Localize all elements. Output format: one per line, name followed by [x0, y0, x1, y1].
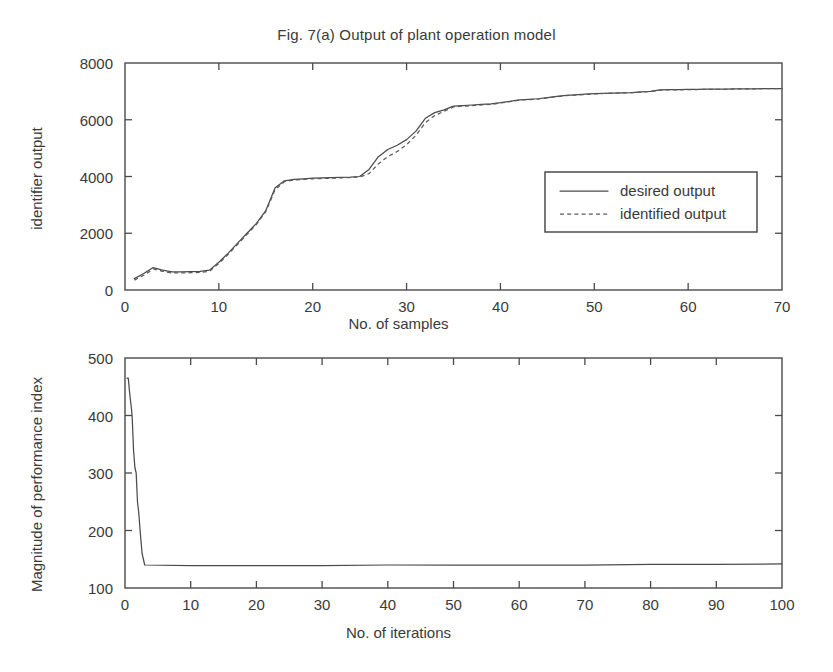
y-tick-label: 200: [88, 523, 113, 540]
x-tick-label: 30: [398, 298, 415, 315]
x-tick-label: 80: [642, 596, 659, 613]
x-tick-label: 90: [708, 596, 725, 613]
plot-panel-bottom: Magnitude of performance index No. of it…: [0, 336, 833, 672]
x-tick-label: 0: [121, 596, 129, 613]
legend-label-desired: desired output: [620, 182, 716, 199]
plot-panel-top: Fig. 7(a) Output of plant operation mode…: [0, 0, 833, 340]
figure-container: Fig. 7(a) Output of plant operation mode…: [0, 0, 833, 672]
series-line-performance-index: [127, 378, 782, 565]
y-tick-label: 8000: [80, 55, 113, 72]
legend-top: desired output identified output: [545, 172, 757, 232]
legend-box-rect: [545, 172, 757, 232]
plot-svg-bottom: 0102030405060708090100100200300400500: [0, 336, 833, 672]
legend-label-identified: identified output: [620, 205, 727, 222]
x-axis-label-bottom: No. of iterations: [0, 624, 815, 641]
data-series-bottom: [127, 378, 782, 565]
x-tick-label: 30: [314, 596, 331, 613]
x-tick-label: 0: [121, 298, 129, 315]
x-tick-label: 20: [304, 298, 321, 315]
y-tick-label: 300: [88, 465, 113, 482]
y-axis-label-top: identifier output: [28, 99, 45, 259]
y-tick-label: 400: [88, 408, 113, 425]
x-tick-label: 10: [182, 596, 199, 613]
axis-ticks-bottom: 0102030405060708090100100200300400500: [88, 350, 795, 613]
x-tick-label: 70: [774, 298, 791, 315]
x-tick-label: 40: [492, 298, 509, 315]
plot-frame-bottom: [125, 358, 782, 588]
plot-svg-top: 01020304050607002000400060008000 desired…: [0, 0, 833, 340]
x-tick-label: 40: [379, 596, 396, 613]
y-tick-label: 0: [105, 282, 113, 299]
y-axis-label-bottom: Magnitude of performance index: [28, 350, 45, 620]
axes-frame-bottom: [125, 358, 782, 588]
x-axis-label-top: No. of samples: [0, 315, 815, 332]
x-tick-label: 60: [680, 298, 697, 315]
x-tick-label: 70: [577, 596, 594, 613]
y-tick-label: 100: [88, 580, 113, 597]
x-tick-label: 10: [211, 298, 228, 315]
x-tick-label: 100: [769, 596, 794, 613]
x-tick-label: 60: [511, 596, 528, 613]
x-tick-label: 20: [248, 596, 265, 613]
y-tick-label: 500: [88, 350, 113, 367]
x-tick-label: 50: [586, 298, 603, 315]
y-tick-label: 2000: [80, 225, 113, 242]
y-tick-label: 6000: [80, 112, 113, 129]
chart-title-top: Fig. 7(a) Output of plant operation mode…: [0, 26, 833, 43]
y-tick-label: 4000: [80, 169, 113, 186]
x-tick-label: 50: [445, 596, 462, 613]
